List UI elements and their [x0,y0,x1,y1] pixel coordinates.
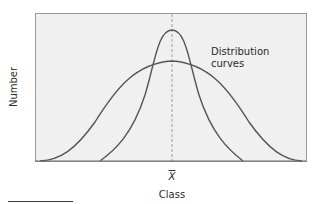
mean-x-bar-label: X [169,171,176,183]
distribution-figure [0,0,320,204]
mean-symbol: X [169,171,176,182]
distribution-curves-annotation: Distribution curves [211,46,269,70]
y-axis-label: Number [8,67,20,107]
annotation-line-2: curves [211,58,269,70]
x-axis-label: Class [159,189,185,201]
footnote-rule [8,201,73,202]
plot-area [36,14,307,162]
annotation-line-1: Distribution [211,46,269,58]
